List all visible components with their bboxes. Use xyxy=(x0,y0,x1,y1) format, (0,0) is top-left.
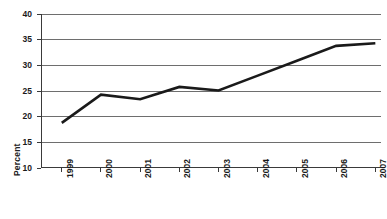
line-chart: Percent 10152025303540 19992000200120022… xyxy=(0,0,387,219)
x-tick-label-2004: 2004 xyxy=(262,159,271,178)
x-tick-label-2006: 2006 xyxy=(340,159,349,178)
x-tick-label-2001: 2001 xyxy=(144,159,153,178)
x-tick-label-2000: 2000 xyxy=(105,159,114,178)
x-tick-label-2002: 2002 xyxy=(183,159,192,178)
x-axis-tick-labels: 199920002001200220032004200520062007 xyxy=(0,0,387,219)
x-tick-label-2003: 2003 xyxy=(223,159,232,178)
x-tick-label-2005: 2005 xyxy=(301,159,310,178)
x-tick-label-1999: 1999 xyxy=(66,159,75,178)
x-tick-label-2007: 2007 xyxy=(379,159,387,178)
